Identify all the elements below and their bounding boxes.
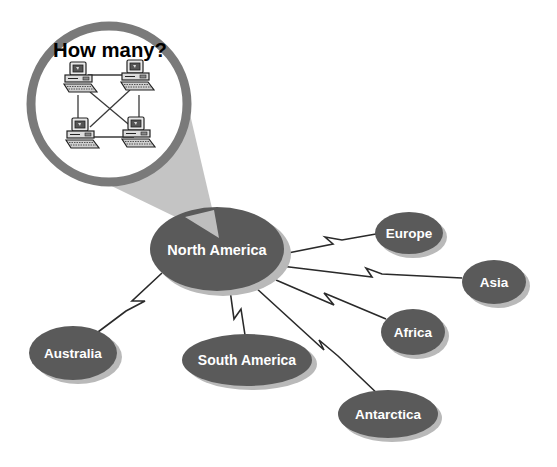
node-south-america[interactable]: South America [182,334,317,390]
node-australia[interactable]: Australia [29,326,122,384]
connector-asia [281,266,462,278]
node-label: Africa [394,325,433,340]
node-antarctica[interactable]: Antarctica [338,390,442,442]
node-label: Europe [386,226,433,241]
node-label: South America [198,352,296,368]
callout-magnifier: How many? [31,26,187,182]
node-label: Asia [480,275,509,290]
connector-south-america [230,290,245,335]
node-africa[interactable]: Africa [381,309,449,359]
node-europe[interactable]: Europe [375,212,447,258]
hub-label: North America [167,242,267,258]
node-label: Antarctica [355,407,422,422]
node-asia[interactable]: Asia [462,260,530,308]
connector-europe [283,234,376,254]
node-label: Australia [44,346,102,361]
connector-africa [276,280,386,319]
connector-australia [98,273,162,332]
network-diagram: North America Europe Asia Africa Antarct… [0,0,557,467]
hub-node-north-america[interactable]: North America [150,207,291,296]
callout-title: How many? [53,38,167,61]
